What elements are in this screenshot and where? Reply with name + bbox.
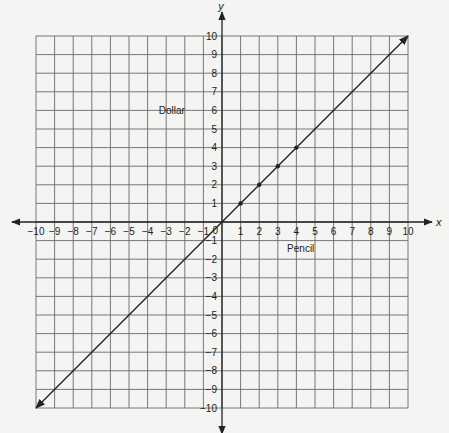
y-axis-letter: y [217,0,225,12]
y-tick-label: −7 [206,347,218,358]
y-tick-label: 9 [211,49,217,60]
data-point [294,145,298,149]
y-tick-label: −3 [206,272,218,283]
x-tick-label: 1 [238,226,244,237]
y-tick-label: 8 [211,68,217,79]
y-tick-label: 5 [211,124,217,135]
x-tick-label: −2 [179,226,191,237]
y-tick-label: −10 [200,403,217,414]
y-tick-label: −4 [206,291,218,302]
y-tick-label: 1 [211,198,217,209]
data-point [238,201,242,205]
y-tick-label: 3 [211,161,217,172]
x-tick-label: 10 [402,226,414,237]
y-tick-label: −9 [206,384,218,395]
y-tick-label: −5 [206,310,218,321]
x-tick-label: −7 [86,226,98,237]
x-tick-label: −8 [67,226,79,237]
x-tick-label: −3 [160,226,172,237]
x-tick-label: 7 [349,226,355,237]
y-tick-label: −2 [206,254,218,265]
x-tick-label: −6 [105,226,117,237]
x-tick-label: 5 [312,226,318,237]
x-tick-label: 9 [387,226,393,237]
y-tick-label: 4 [211,142,217,153]
x-tick-label: −9 [49,226,61,237]
coordinate-plane: −10−9−8−7−6−5−4−3−2−112345678910−10−9−8−… [0,0,449,433]
y-tick-label: 7 [211,86,217,97]
y-tick-label: −8 [206,365,218,376]
y-tick-label: 2 [211,179,217,190]
y-tick-label: −6 [206,328,218,339]
x-tick-label: −4 [142,226,154,237]
data-point [276,164,280,168]
x-axis-letter: x [435,216,442,228]
y-axis-label: Dollar [159,105,186,116]
x-tick-label: 6 [331,226,337,237]
x-tick-label: 4 [294,226,300,237]
x-tick-label: −10 [28,226,45,237]
x-tick-label: 8 [368,226,374,237]
y-tick-label: 10 [206,31,218,42]
x-axis-label: Pencil [287,243,314,254]
y-tick-label: 6 [211,105,217,116]
data-point [257,183,261,187]
x-tick-label: 2 [256,226,262,237]
x-tick-label: 3 [275,226,281,237]
x-tick-label: −5 [123,226,135,237]
